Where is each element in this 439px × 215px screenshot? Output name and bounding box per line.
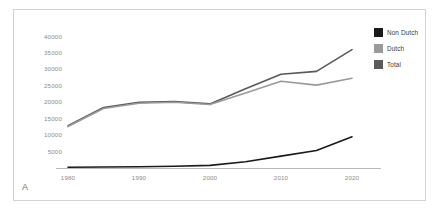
x-tick-2020: 2020 [337,174,367,181]
figure-panel: 400003500030000250002000015000100005000 … [0,0,439,215]
y-tick-5000: 5000 [26,148,62,155]
y-tick-10000: 10000 [26,131,62,138]
panel-label: A [22,182,28,192]
y-tick-30000: 30000 [26,65,62,72]
x-tick-1990: 1990 [124,174,154,181]
y-tick-20000: 20000 [26,98,62,105]
x-tick-1980: 1980 [53,174,83,181]
y-tick-35000: 35000 [26,49,62,56]
series-line-total [68,50,352,126]
x-tick-2000: 2000 [195,174,225,181]
chart-legend: Non Dutch Dutch Total [374,27,436,75]
y-tick-40000: 40000 [26,33,62,40]
series-line-dutch [68,78,352,126]
y-tick-25000: 25000 [26,82,62,89]
legend-label-non-dutch: Non Dutch [387,28,418,37]
legend-label-total: Total [387,60,401,69]
series-line-non-dutch [68,137,352,167]
legend-swatch-dutch [374,44,383,53]
series-lines [68,50,352,168]
legend-item-dutch: Dutch [374,43,436,54]
legend-label-dutch: Dutch [387,44,404,53]
y-tick-15000: 15000 [26,115,62,122]
x-tick-2010: 2010 [266,174,296,181]
legend-swatch-non-dutch [374,28,383,37]
legend-item-non-dutch: Non Dutch [374,27,436,38]
legend-swatch-total [374,60,383,69]
legend-item-total: Total [374,59,436,70]
